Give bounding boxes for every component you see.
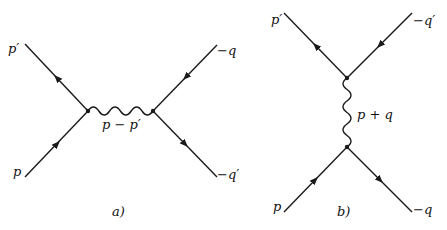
label-a-bottom-right: −q′ [217, 168, 239, 181]
photon-propagator-b [343, 78, 351, 147]
label-b-propagator: p + q [357, 108, 393, 121]
fermion-line-a-top-right [153, 45, 217, 111]
label-a-propagator: p − p′ [102, 118, 141, 131]
photon-propagator-a [88, 107, 153, 115]
label-a-top-left: p′ [8, 42, 19, 55]
label-b-top-left: p′ [271, 13, 282, 26]
label-b-bottom-right: −q [413, 203, 432, 216]
vertex-b-top [345, 76, 349, 80]
label-a-top-right: −q [217, 44, 236, 57]
label-b-bottom-left: p [273, 200, 281, 213]
caption-b: b) [337, 205, 350, 218]
vertex-a-left [86, 109, 90, 113]
vertex-a-right [151, 109, 155, 113]
label-b-top-right: −q′ [413, 14, 435, 27]
caption-a: a) [112, 205, 125, 218]
fermion-line-b-top-right [347, 13, 412, 78]
fermion-line-b-bottom-right [347, 147, 412, 212]
fermion-line-b-top-left [284, 13, 347, 78]
fermion-line-a-bottom-right [153, 111, 217, 177]
diagram-a [25, 44, 217, 177]
fermion-line-a-bottom-left [25, 111, 88, 177]
vertex-b-bottom [345, 145, 349, 149]
fermion-line-a-top-left [25, 44, 88, 111]
label-a-bottom-left: p [13, 165, 21, 178]
fermion-line-b-bottom-left [284, 147, 347, 212]
